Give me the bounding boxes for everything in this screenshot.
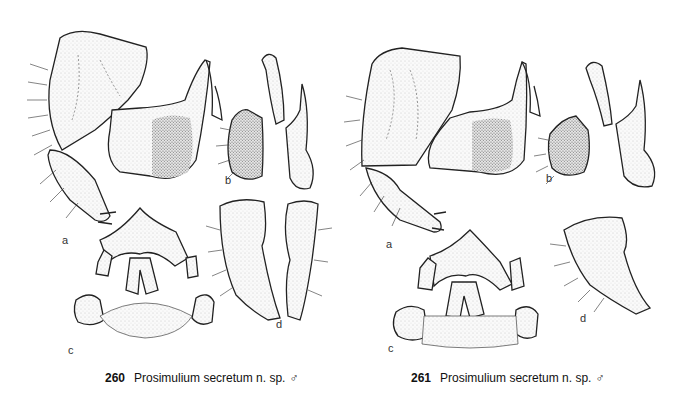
subfigure-b-260	[216, 54, 313, 188]
subfigure-label-b: b	[546, 172, 552, 184]
subfigure-c-260	[74, 208, 214, 338]
subfigure-d-261	[550, 217, 650, 314]
figure-number: 260	[105, 371, 125, 385]
subfigure-c-261	[393, 230, 538, 348]
figure-260: a b c d 260Prosimulium secretum n. sp.♂	[0, 0, 340, 393]
subfigure-label-c: c	[388, 342, 394, 354]
subfigure-label-a: a	[62, 234, 68, 246]
figure-caption: 261Prosimulium secretum n. sp.♂	[411, 371, 604, 385]
subfigure-label-d: d	[276, 318, 282, 330]
subfigure-label-a: a	[386, 238, 392, 250]
subfigure-label-b: b	[225, 174, 231, 186]
subfigure-label-d: d	[580, 312, 586, 324]
figure-261: a b c d 261Prosimulium secretum n. sp.♂	[340, 0, 680, 393]
male-symbol-icon: ♂	[595, 371, 604, 385]
figure-261-drawing	[340, 0, 680, 360]
subfigure-label-c: c	[68, 344, 74, 356]
figure-number: 261	[411, 371, 431, 385]
figure-title: Prosimulium secretum n. sp.	[440, 371, 591, 385]
subfigure-b-261	[534, 62, 655, 186]
figure-title: Prosimulium secretum n. sp.	[134, 371, 285, 385]
figure-caption: 260Prosimulium secretum n. sp.♂	[105, 371, 298, 385]
figure-260-drawing	[0, 0, 340, 360]
illustration-plate: a b c d 260Prosimulium secretum n. sp.♂	[0, 0, 680, 393]
subfigure-d-260	[206, 200, 332, 320]
male-symbol-icon: ♂	[289, 371, 298, 385]
